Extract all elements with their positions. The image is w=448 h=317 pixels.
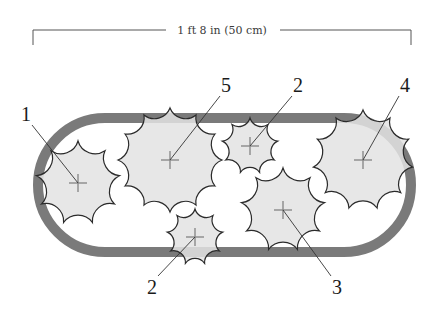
plant-4 — [314, 110, 413, 208]
dimension-line: 1 ft 8 in (50 cm) — [33, 24, 411, 45]
plant-label: 2 — [293, 74, 303, 96]
plants-group — [37, 108, 413, 263]
plant-2 — [222, 118, 277, 172]
plant-3 — [242, 168, 325, 250]
plant-label: 5 — [221, 74, 231, 96]
plant-label: 4 — [400, 74, 410, 96]
plant-label: 1 — [21, 103, 31, 125]
plant-label: 3 — [332, 276, 342, 298]
planting-diagram: 1 ft 8 in (50 cm) 152432 — [0, 0, 448, 317]
dimension-label: 1 ft 8 in (50 cm) — [177, 24, 267, 37]
plant-label: 2 — [147, 276, 157, 298]
